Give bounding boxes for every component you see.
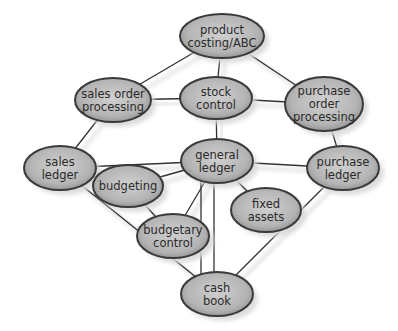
node-label: fixed <box>252 197 280 211</box>
node-label: ledger <box>42 168 79 182</box>
node-label: general <box>195 148 239 162</box>
node-label: budgeting <box>99 179 158 193</box>
nodes: productcosting/ABCsales orderprocessings… <box>24 14 384 321</box>
node-label: processing <box>293 110 355 124</box>
node-label: costing/ABC <box>187 36 256 50</box>
node-label: book <box>203 294 231 308</box>
node-label: budgetary <box>143 223 203 237</box>
node-sales-ledger: salesledger <box>24 146 101 195</box>
node-purchase-order: purchaseorderprocessing <box>285 77 368 136</box>
node-product-costing: productcosting/ABC <box>180 14 269 63</box>
node-label: purchase <box>298 84 351 98</box>
node-fixed-assets: fixedassets <box>231 188 306 237</box>
node-label: control <box>196 98 236 112</box>
node-label: sales order <box>81 87 145 101</box>
node-label: product <box>200 23 245 37</box>
node-sales-order: sales orderprocessing <box>75 78 156 127</box>
node-label: stock <box>201 85 232 99</box>
node-label: order <box>309 97 340 111</box>
node-purchase-ledger: purchaseledger <box>307 146 384 195</box>
node-cash-book: cashbook <box>181 272 258 321</box>
node-label: assets <box>248 210 285 224</box>
node-label: processing <box>82 100 144 114</box>
node-label: control <box>153 236 193 250</box>
node-label: ledger <box>325 168 362 182</box>
diagram-canvas: productcosting/ABCsales orderprocessings… <box>0 0 398 331</box>
node-budgetary-control: budgetarycontrol <box>137 214 214 263</box>
node-label: ledger <box>199 161 236 175</box>
node-label: cash <box>204 281 231 295</box>
node-label: purchase <box>317 155 370 169</box>
node-general-ledger: generalledger <box>181 139 258 188</box>
node-label: sales <box>45 155 74 169</box>
node-stock-control: stockcontrol <box>180 77 257 124</box>
accounting-modules-diagram: productcosting/ABCsales orderprocessings… <box>0 0 398 331</box>
